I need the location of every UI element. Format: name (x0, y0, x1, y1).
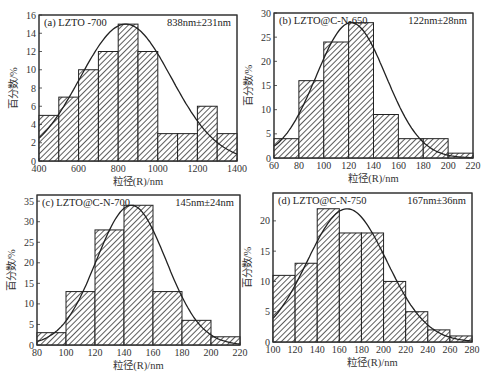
x-tick-label: 140 (310, 344, 325, 355)
x-tick-label: 200 (204, 347, 219, 358)
chart-panel-b: 6080100120140160180200220051015202530(b)… (242, 8, 481, 186)
histogram-bar (295, 263, 317, 342)
y-tick-label: 5 (29, 319, 34, 330)
y-tick-label: 4 (31, 119, 36, 130)
y-tick-label: 0 (31, 156, 36, 167)
mean-size-annotation: 167nm±36nm (407, 195, 466, 206)
histogram-bar (374, 115, 399, 159)
x-tick-label: 1400 (227, 163, 247, 174)
histogram-bar (274, 139, 299, 158)
histogram-bar (158, 134, 178, 161)
x-tick-label: 220 (466, 160, 481, 171)
y-tick-label: 0 (265, 337, 270, 348)
particle-size-distribution-figure: 4006008001000120014000246810121416(a) LZ… (0, 0, 489, 379)
histogram-bar (79, 70, 99, 161)
x-tick-label: 180 (416, 160, 431, 171)
y-tick-label: 0 (29, 340, 34, 351)
x-tick-label: 280 (465, 344, 480, 355)
mean-size-annotation: 122nm±28nm (408, 15, 467, 26)
x-tick-label: 140 (117, 347, 132, 358)
x-axis-label: 粒径(R)/nm (113, 175, 163, 188)
y-tick-label: 15 (24, 278, 34, 289)
y-axis-label: 百分数/% (242, 64, 254, 106)
y-tick-label: 20 (260, 215, 270, 226)
histogram-bar (423, 139, 448, 158)
x-tick-label: 800 (111, 163, 126, 174)
y-tick-label: 5 (265, 306, 270, 317)
x-tick-label: 240 (420, 344, 435, 355)
x-axis-label: 粒径(R)/nm (347, 356, 397, 369)
y-tick-label: 16 (26, 10, 36, 21)
x-tick-label: 180 (354, 344, 369, 355)
histogram-bar (95, 230, 124, 345)
histogram-bar (398, 139, 423, 158)
y-tick-label: 12 (26, 46, 36, 57)
histogram-bar (317, 209, 339, 342)
histogram-bar (118, 24, 138, 161)
histogram-bar (178, 134, 198, 161)
x-tick-label: 120 (341, 160, 356, 171)
histogram-bar (153, 292, 182, 345)
x-tick-label: 100 (59, 347, 74, 358)
histogram-bar (217, 134, 237, 161)
y-tick-label: 10 (26, 64, 36, 75)
y-tick-label: 8 (31, 83, 36, 94)
y-tick-label: 6 (31, 101, 36, 112)
panel-title: (d) LZTO@C-N-750 (278, 195, 367, 207)
y-axis-label: 百分数/% (7, 67, 19, 109)
histogram-bar (349, 23, 374, 158)
x-tick-label: 160 (146, 347, 161, 358)
histogram-bar (361, 233, 383, 342)
histogram-bar (98, 52, 118, 162)
y-tick-label: 15 (261, 80, 271, 91)
x-tick-label: 1000 (148, 163, 168, 174)
y-tick-label: 0 (266, 153, 271, 164)
y-tick-label: 10 (260, 276, 270, 287)
panel-title: (c) LZTO@C-N-700 (42, 197, 130, 209)
x-tick-label: 200 (376, 344, 391, 355)
x-tick-label: 220 (233, 347, 248, 358)
x-tick-label: 260 (442, 344, 457, 355)
x-tick-label: 160 (391, 160, 406, 171)
y-tick-label: 15 (260, 246, 270, 257)
y-tick-label: 20 (24, 257, 34, 268)
histogram-bar (299, 81, 324, 158)
x-axis-label: 粒径(R)/nm (348, 172, 398, 185)
x-tick-label: 160 (332, 344, 347, 355)
chart-panel-c: 8010012014016018020022005101520253035(c)… (5, 195, 248, 372)
y-tick-label: 5 (266, 128, 271, 139)
mean-size-annotation: 838nm±231nm (167, 17, 231, 28)
y-tick-label: 10 (261, 104, 271, 115)
y-tick-label: 2 (31, 137, 36, 148)
x-tick-label: 120 (88, 347, 103, 358)
y-tick-label: 10 (24, 298, 34, 309)
histogram-bar (59, 97, 79, 161)
y-tick-label: 25 (24, 237, 34, 248)
y-tick-label: 35 (24, 196, 34, 207)
x-tick-label: 180 (175, 347, 190, 358)
histogram-bar (124, 205, 153, 345)
chart-panel-d: 10012014016018020022024026028005101520(d… (241, 193, 480, 369)
y-tick-label: 25 (261, 32, 271, 43)
chart-panel-a: 4006008001000120014000246810121416(a) LZ… (7, 10, 247, 189)
x-tick-label: 100 (316, 160, 331, 171)
histogram-bar (324, 42, 349, 158)
y-axis-label: 百分数/% (241, 246, 253, 288)
x-axis-label: 粒径(R)/nm (113, 359, 163, 372)
histogram-bar (39, 115, 59, 161)
x-tick-label: 1200 (187, 163, 207, 174)
x-tick-label: 120 (288, 344, 303, 355)
histogram-bar (406, 312, 428, 342)
histogram-bar (66, 292, 95, 345)
mean-size-annotation: 145nm±24nm (175, 197, 234, 208)
y-tick-label: 14 (26, 28, 36, 39)
panel-title: (a) LZTO -700 (44, 17, 107, 29)
x-tick-label: 600 (71, 163, 86, 174)
histogram-bar (138, 52, 158, 162)
y-tick-label: 30 (261, 8, 271, 19)
x-tick-label: 200 (441, 160, 456, 171)
y-tick-label: 30 (24, 216, 34, 227)
panel-title: (b) LZTO@C-N-650 (279, 15, 368, 27)
histogram-bar (182, 320, 211, 345)
x-tick-label: 220 (398, 344, 413, 355)
